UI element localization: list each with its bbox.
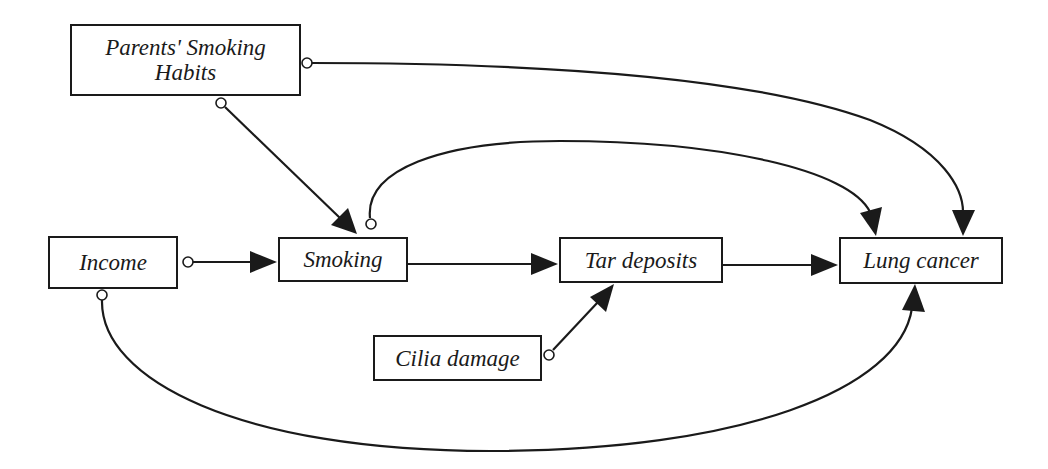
arrowhead-icon xyxy=(860,207,882,236)
circle-endpoint-icon xyxy=(97,290,107,300)
node-parents-smoking-habits: Parents' Smoking Habits xyxy=(70,24,301,96)
node-lung-cancer: Lung cancer xyxy=(839,237,1003,284)
node-label: Income xyxy=(79,250,147,275)
edge-tar-deposits-to-lung-cancer xyxy=(722,254,838,276)
node-smoking: Smoking xyxy=(278,237,408,282)
node-label: Parents' Smoking xyxy=(105,35,266,60)
arrowhead-icon xyxy=(902,284,925,312)
node-income: Income xyxy=(48,236,178,289)
arrowhead-icon xyxy=(250,251,277,273)
arrowhead-icon xyxy=(811,254,838,276)
circle-endpoint-icon xyxy=(216,98,226,108)
arrowhead-icon xyxy=(531,253,558,275)
edge-smoking-to-lung-cancer xyxy=(366,141,882,236)
causal-diagram: Parents' Smoking Habits Income Smoking T… xyxy=(0,0,1048,469)
node-cilia-damage: Cilia damage xyxy=(373,335,542,381)
node-label: Lung cancer xyxy=(863,248,979,273)
arrowhead-icon xyxy=(952,210,975,236)
circle-endpoint-icon xyxy=(366,219,376,229)
edge-smoking-to-tar-deposits xyxy=(407,253,558,275)
circle-endpoint-icon xyxy=(302,58,312,68)
node-label: Habits xyxy=(155,60,216,85)
node-label: Tar deposits xyxy=(585,248,697,273)
node-tar-deposits: Tar deposits xyxy=(559,237,723,283)
node-label: Cilia damage xyxy=(395,346,520,371)
node-label: Smoking xyxy=(303,247,382,272)
edge-cilia-damage-to-tar-deposits xyxy=(544,284,614,360)
edge-parents-to-smoking xyxy=(216,98,357,234)
circle-endpoint-icon xyxy=(183,257,193,267)
edge-income-to-smoking xyxy=(183,251,277,273)
circle-endpoint-icon xyxy=(544,350,554,360)
